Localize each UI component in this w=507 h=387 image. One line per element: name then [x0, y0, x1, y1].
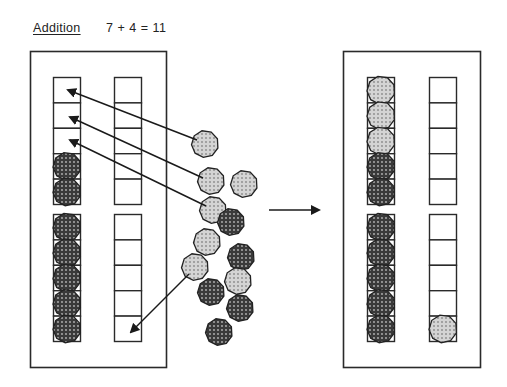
- dark-counter-chip: [53, 264, 80, 292]
- ten-frame-cell: [115, 265, 142, 290]
- ten-frame-cell: [115, 179, 142, 204]
- ten-frame-cell: [430, 291, 457, 316]
- ten-frame-cell: [115, 240, 142, 265]
- left-ten-frames: [53, 78, 142, 343]
- dark-counter-chip: [53, 214, 80, 242]
- dark-counter-chip: [367, 290, 394, 318]
- dark-counter-chip: [367, 315, 394, 343]
- ten-frame-cell: [54, 128, 81, 153]
- ten-frame-cell: [115, 78, 142, 103]
- light-loose-chip: [192, 131, 218, 158]
- ten-frame-cell: [115, 291, 142, 316]
- ten-frame-cell: [115, 154, 142, 179]
- right-frame: [344, 52, 481, 368]
- ten-frame-cell: [430, 78, 457, 103]
- light-loose-chip: [198, 168, 224, 195]
- left-frame-border: [31, 52, 167, 368]
- dark-counter-chip: [53, 239, 80, 267]
- ten-frame-cell: [115, 103, 142, 128]
- dark-loose-chip: [227, 295, 253, 322]
- light-counter-chip: [367, 102, 394, 130]
- dark-counter-chip: [367, 178, 394, 206]
- ten-frame-cell: [115, 128, 142, 153]
- light-loose-chip: [231, 171, 257, 198]
- ten-frame-cell: [430, 179, 457, 204]
- dark-loose-chip: [228, 244, 254, 271]
- light-counter-chip: [429, 315, 456, 343]
- ten-frame-cell: [430, 240, 457, 265]
- light-loose-chip: [225, 268, 251, 295]
- light-counter-chip: [367, 77, 394, 105]
- dark-counter-chip: [367, 214, 394, 242]
- ten-frame-cell: [430, 154, 457, 179]
- left-frame: [31, 52, 167, 368]
- dark-counter-chip: [53, 178, 80, 206]
- ten-frame-cell: [430, 265, 457, 290]
- ten-frame-cell: [430, 103, 457, 128]
- right-ten-frames: [367, 77, 457, 343]
- dark-counter-chip: [53, 315, 80, 343]
- loose-chips: [182, 131, 257, 346]
- dark-counter-chip: [367, 239, 394, 267]
- ten-frame-cell: [115, 215, 142, 240]
- right-frame-border: [344, 52, 481, 368]
- ten-frame-cell: [54, 78, 81, 103]
- addition-diagram: [0, 0, 507, 387]
- dark-counter-chip: [367, 264, 394, 292]
- light-counter-chip: [367, 127, 394, 155]
- ten-frame-cell: [430, 215, 457, 240]
- ten-frame-cell: [54, 103, 81, 128]
- light-loose-chip: [182, 254, 208, 281]
- ten-frame-cell: [430, 128, 457, 153]
- dark-loose-chip: [218, 209, 244, 236]
- light-loose-chip: [194, 229, 220, 256]
- dark-loose-chip: [198, 279, 224, 306]
- dark-counter-chip: [53, 153, 80, 181]
- dark-counter-chip: [53, 290, 80, 318]
- dark-counter-chip: [367, 153, 394, 181]
- dark-loose-chip: [206, 319, 232, 346]
- ten-frame-cell: [115, 316, 142, 341]
